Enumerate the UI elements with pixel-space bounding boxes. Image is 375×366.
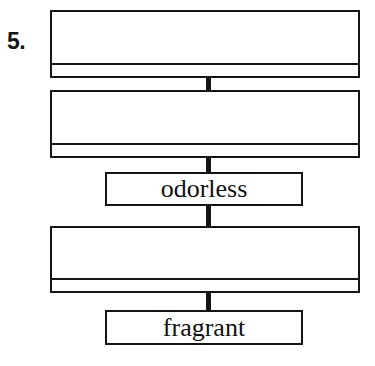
connector-box3-to-fragrant	[206, 292, 211, 311]
connector-box2-to-odorless	[206, 157, 211, 173]
answer-box-1[interactable]	[50, 10, 360, 78]
item-number-label: 5.	[7, 30, 25, 53]
connector-odorless-to-box3	[206, 204, 211, 227]
answer-box-3[interactable]	[50, 226, 360, 293]
word-box-fragrant-label: fragrant	[163, 315, 245, 341]
answer-box-3-strip-field[interactable]	[52, 278, 358, 291]
answer-box-2-strip-field[interactable]	[52, 143, 358, 156]
answer-box-3-main-field[interactable]	[52, 228, 358, 278]
answer-box-2-main-field[interactable]	[52, 92, 358, 143]
answer-box-2[interactable]	[50, 90, 360, 158]
connector-box1-to-box2	[206, 77, 211, 91]
answer-box-1-strip-field[interactable]	[52, 63, 358, 76]
word-box-odorless[interactable]: odorless	[105, 172, 303, 206]
word-box-fragrant[interactable]: fragrant	[105, 310, 303, 345]
word-box-odorless-label: odorless	[161, 176, 248, 202]
answer-box-1-main-field[interactable]	[52, 12, 358, 63]
worksheet-diagram: 5. odorless fragrant	[0, 0, 375, 366]
